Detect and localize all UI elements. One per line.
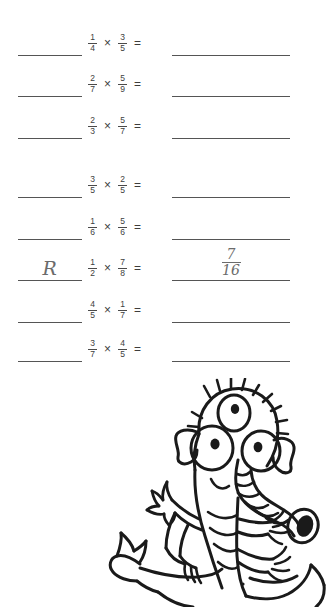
letter-blank-line[interactable] bbox=[18, 138, 82, 139]
equals-sign: = bbox=[134, 220, 141, 234]
problem-row-answered: R 1 2 × 7 8 = 7 16 bbox=[0, 247, 329, 281]
numerator: 2 bbox=[89, 116, 96, 125]
letter-blank-line[interactable] bbox=[18, 322, 82, 323]
fraction-factor-2: 5 9 bbox=[118, 74, 127, 93]
denominator: 3 bbox=[89, 127, 96, 136]
numerator: 2 bbox=[89, 74, 96, 83]
fraction-factor-1: 2 7 bbox=[88, 74, 97, 93]
equals-sign: = bbox=[134, 303, 141, 317]
answer-blank-line[interactable] bbox=[172, 361, 290, 362]
answer-blank-line[interactable] bbox=[172, 322, 290, 323]
equals-sign: = bbox=[134, 178, 141, 192]
expression: 2 7 × 5 9 = bbox=[88, 70, 141, 100]
three-eyed-trunk-monster-illustration bbox=[98, 378, 329, 607]
answer-blank-line[interactable] bbox=[172, 96, 290, 97]
letter-answer: R bbox=[18, 259, 82, 278]
denominator: 4 bbox=[89, 44, 96, 53]
expression: 1 6 × 5 6 = bbox=[88, 213, 141, 243]
problem-row: 3 5 × 2 5 = bbox=[0, 164, 329, 198]
letter-blank-line[interactable] bbox=[18, 55, 82, 56]
expression: 1 4 × 3 5 = bbox=[88, 29, 141, 59]
multiplication-sign: × bbox=[104, 303, 111, 317]
multiplication-sign: × bbox=[104, 36, 111, 50]
denominator: 2 bbox=[89, 269, 96, 278]
answer-blank-line[interactable] bbox=[172, 138, 290, 139]
numerator: 5 bbox=[119, 116, 126, 125]
numerator: 1 bbox=[119, 300, 126, 309]
numerator: 4 bbox=[89, 300, 96, 309]
multiplication-sign: × bbox=[104, 178, 111, 192]
denominator: 7 bbox=[119, 311, 126, 320]
letter-blank-line[interactable] bbox=[18, 361, 82, 362]
numerator: 5 bbox=[119, 217, 126, 226]
fraction-factor-2: 5 7 bbox=[118, 116, 127, 135]
fraction-factor-1: 1 2 bbox=[88, 258, 97, 277]
answer-blank-line[interactable] bbox=[172, 197, 290, 198]
fraction-factor-2: 1 7 bbox=[118, 300, 127, 319]
numerator: 1 bbox=[89, 33, 96, 42]
numerator: 1 bbox=[89, 217, 96, 226]
answer-blank-line[interactable] bbox=[172, 55, 290, 56]
denominator: 7 bbox=[89, 85, 96, 94]
numerator: 3 bbox=[89, 339, 96, 348]
equals-sign: = bbox=[134, 36, 141, 50]
multiplication-sign: × bbox=[104, 261, 111, 275]
letter-blank-line[interactable] bbox=[18, 197, 82, 198]
fraction-factor-1: 3 7 bbox=[88, 339, 97, 358]
letter-blank-line[interactable] bbox=[18, 280, 82, 281]
denominator: 6 bbox=[119, 228, 126, 237]
multiplication-sign: × bbox=[104, 119, 111, 133]
fraction-factor-2: 2 5 bbox=[118, 175, 127, 194]
numerator: 7 bbox=[119, 258, 126, 267]
answer-denominator: 16 bbox=[222, 263, 240, 278]
expression: 2 3 × 5 7 = bbox=[88, 112, 141, 142]
equals-sign: = bbox=[134, 261, 141, 275]
expression: 3 7 × 4 5 = bbox=[88, 335, 141, 365]
answer-blank-line[interactable] bbox=[172, 239, 290, 240]
equals-sign: = bbox=[134, 119, 141, 133]
fraction-factor-1: 3 5 bbox=[88, 175, 97, 194]
equals-sign: = bbox=[134, 342, 141, 356]
denominator: 9 bbox=[119, 85, 126, 94]
multiplication-sign: × bbox=[104, 77, 111, 91]
denominator: 8 bbox=[119, 269, 126, 278]
problem-row: 2 7 × 5 9 = bbox=[0, 63, 329, 97]
denominator: 5 bbox=[89, 186, 96, 195]
fraction-factor-1: 2 3 bbox=[88, 116, 97, 135]
answer-value: 7 16 bbox=[172, 247, 290, 278]
denominator: 5 bbox=[119, 44, 126, 53]
denominator: 6 bbox=[89, 228, 96, 237]
fraction-factor-2: 3 5 bbox=[118, 33, 127, 52]
denominator: 5 bbox=[119, 186, 126, 195]
numerator: 3 bbox=[119, 33, 126, 42]
problem-row: 2 3 × 5 7 = bbox=[0, 105, 329, 139]
numerator: 4 bbox=[119, 339, 126, 348]
problem-row: 3 7 × 4 5 = bbox=[0, 328, 329, 362]
answer-fraction: 7 16 bbox=[222, 247, 241, 278]
worksheet-page: 1 4 × 3 5 = bbox=[0, 0, 329, 607]
denominator: 5 bbox=[89, 311, 96, 320]
fraction-factor-2: 4 5 bbox=[118, 339, 127, 358]
numerator: 5 bbox=[119, 74, 126, 83]
denominator: 5 bbox=[119, 350, 126, 359]
letter-blank-line[interactable] bbox=[18, 96, 82, 97]
expression: 1 2 × 7 8 = bbox=[88, 254, 141, 284]
multiplication-sign: × bbox=[104, 220, 111, 234]
fraction-factor-2: 7 8 bbox=[118, 258, 127, 277]
denominator: 7 bbox=[89, 350, 96, 359]
numerator: 2 bbox=[119, 175, 126, 184]
multiplication-sign: × bbox=[104, 342, 111, 356]
problem-row: 4 5 × 1 7 = bbox=[0, 289, 329, 323]
fraction-factor-1: 4 5 bbox=[88, 300, 97, 319]
numerator: 3 bbox=[89, 175, 96, 184]
answer-blank-line[interactable] bbox=[172, 280, 290, 281]
fraction-factor-1: 1 6 bbox=[88, 217, 97, 236]
problem-row: 1 6 × 5 6 = bbox=[0, 206, 329, 240]
answer-numerator: 7 bbox=[227, 247, 236, 262]
letter-blank-line[interactable] bbox=[18, 239, 82, 240]
expression: 3 5 × 2 5 = bbox=[88, 171, 141, 201]
expression: 4 5 × 1 7 = bbox=[88, 296, 141, 326]
equals-sign: = bbox=[134, 77, 141, 91]
fraction-factor-2: 5 6 bbox=[118, 217, 127, 236]
problem-row: 1 4 × 3 5 = bbox=[0, 22, 329, 56]
